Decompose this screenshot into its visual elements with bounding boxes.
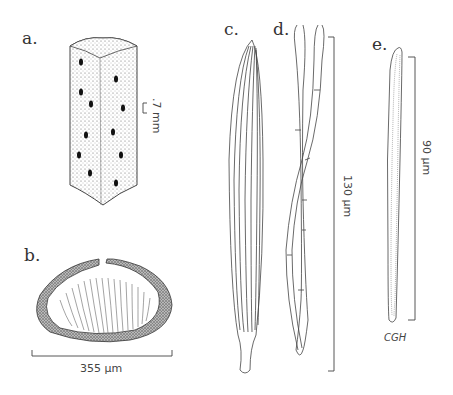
panel-a-prism xyxy=(70,38,147,205)
radial-ribs xyxy=(60,278,150,333)
panel-label-b: b. xyxy=(24,245,40,265)
panel-d-twisted-fibers xyxy=(286,25,334,371)
panel-c-spicule-bundle xyxy=(229,40,263,373)
artist-signature: CGH xyxy=(384,332,406,343)
panel-b-cross-section xyxy=(32,259,172,356)
panel-label-d: d. xyxy=(273,19,289,39)
scale-bar-a xyxy=(143,103,147,113)
panel-label-a: a. xyxy=(22,28,38,48)
scale-bar-b xyxy=(32,350,172,356)
panel-label-c: c. xyxy=(224,19,239,39)
scale-label-b: 355 µm xyxy=(80,362,122,375)
scale-label-a: .7 mm xyxy=(150,98,163,133)
scale-label-e: 90 µm xyxy=(420,140,433,175)
panel-label-e: e. xyxy=(372,34,387,54)
scale-bar-d xyxy=(328,37,334,371)
scale-label-d: 130 µm xyxy=(341,175,354,217)
scale-bar-e xyxy=(408,57,415,320)
panel-e-single-fiber xyxy=(387,48,415,323)
